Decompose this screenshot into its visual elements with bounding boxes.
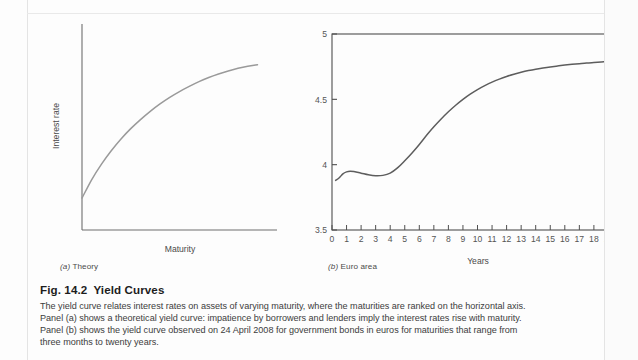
panel-a-caption-prefix: (a) xyxy=(60,262,70,271)
panel-a-caption: (a) Theory xyxy=(60,262,98,271)
panel-b-x-tick-label: 12 xyxy=(502,234,512,244)
panel-b-x-axis-label: Years xyxy=(467,256,489,266)
panel-b-x-tick-label: 9 xyxy=(461,234,466,244)
caption-line-4: three months to twenty years. xyxy=(40,336,600,348)
panel-b-caption: (b) Euro area xyxy=(328,262,377,271)
panel-b-x-ticks xyxy=(332,225,604,230)
panel-b-x-tick-label: 6 xyxy=(417,234,422,244)
panel-b-y-tick-labels: 3.544.55 xyxy=(315,29,327,235)
caption-line-3: Panel (b) shows the yield curve observed… xyxy=(40,324,600,336)
panel-b-x-tick-label: 15 xyxy=(545,234,555,244)
panel-b-x-tick-label: 3 xyxy=(373,234,378,244)
caption-line-2: Panel (a) shows a theoretical yield curv… xyxy=(40,312,600,324)
panel-b-x-tick-label: 8 xyxy=(446,234,451,244)
panel-b-x-tick-label: 4 xyxy=(388,234,393,244)
panel-b-plot: 3.544.55 0123456789101112131415161718192… xyxy=(300,16,604,282)
panel-b-y-ticks xyxy=(332,34,337,230)
panel-b-y-tick-label: 3.5 xyxy=(315,225,327,235)
chart-panel-a-theory: Interest rate Maturity (a) Theory xyxy=(30,16,298,282)
panel-a-yield-curve xyxy=(82,65,258,198)
panel-b-x-tick-label: 17 xyxy=(575,234,585,244)
panel-b-yield-curve xyxy=(336,61,604,181)
panel-b-x-tick-label: 11 xyxy=(488,234,497,244)
panel-a-y-axis-label: Interest rate xyxy=(51,103,61,149)
panel-b-y-tick-label: 4 xyxy=(322,160,327,170)
figure-area: Interest rate Maturity (a) Theory 3.544.… xyxy=(28,14,604,282)
panel-b-caption-prefix: (b) xyxy=(328,262,338,271)
panel-b-y-tick-label: 5 xyxy=(322,29,327,39)
chart-panel-b-euro-area: 3.544.55 0123456789101112131415161718192… xyxy=(300,16,604,282)
panel-b-x-tick-label: 1 xyxy=(344,234,349,244)
caption-line-1: The yield curve relates interest rates o… xyxy=(40,300,600,312)
panel-b-x-tick-label: 13 xyxy=(516,234,526,244)
panel-a-x-axis-label: Maturity xyxy=(165,244,196,254)
panel-b-x-tick-label: 5 xyxy=(402,234,407,244)
panel-b-x-tick-label: 0 xyxy=(330,234,335,244)
panel-b-caption-text: Euro area xyxy=(341,262,377,271)
panel-b-x-tick-label: 7 xyxy=(431,234,436,244)
panel-a-caption-text: Theory xyxy=(72,262,98,271)
panel-b-x-tick-label: 14 xyxy=(531,234,541,244)
page-gutter-right xyxy=(605,0,638,360)
figure-caption-block: Fig. 14.2 Yield Curves The yield curve r… xyxy=(40,283,600,348)
panel-b-x-tick-label: 2 xyxy=(359,234,364,244)
panel-b-x-tick-label: 10 xyxy=(473,234,483,244)
panel-b-x-tick-label: 16 xyxy=(560,234,570,244)
figure-number: Fig. 14.2 xyxy=(40,283,87,296)
panel-b-plot-frame xyxy=(332,34,604,230)
panel-b-x-tick-label: 18 xyxy=(589,234,599,244)
panel-b-y-tick-label: 4.5 xyxy=(315,95,327,105)
figure-title-text: Yield Curves xyxy=(93,283,164,296)
panel-a-plot: Interest rate Maturity xyxy=(30,16,298,282)
figure-title: Fig. 14.2 Yield Curves xyxy=(40,283,600,297)
panel-b-x-tick-labels: 01234567891011121314151617181920 xyxy=(330,234,604,244)
